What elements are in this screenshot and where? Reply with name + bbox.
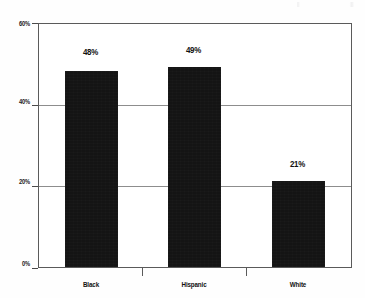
bar-value-hispanic: 49%	[169, 45, 218, 55]
y-axis-label-60: 60%	[3, 20, 30, 27]
x-axis-label-black: Black	[66, 281, 116, 288]
x-axis-separator-1	[142, 268, 143, 276]
scan-artifact	[239, 2, 359, 7]
y-axis-label-40: 40%	[3, 98, 30, 105]
y-axis-label-20: 20%	[3, 178, 30, 185]
x-axis-label-hispanic: Hispanic	[169, 281, 219, 288]
bar-texture	[168, 67, 221, 267]
bar-value-black: 48%	[66, 47, 115, 57]
bar-texture	[65, 71, 118, 267]
bar-chart-figure: 60% 40% 20% 0% 48% 49% 21% Black Hispani…	[0, 0, 365, 298]
bar-black[interactable]	[65, 71, 118, 267]
y-axis-tick-0	[32, 268, 38, 269]
x-axis-separator-2	[246, 268, 247, 276]
bar-texture	[272, 181, 325, 267]
bar-value-white: 21%	[273, 159, 322, 169]
x-axis-label-white: White	[273, 281, 323, 288]
bar-hispanic[interactable]	[168, 67, 221, 267]
bar-white[interactable]	[272, 181, 325, 267]
y-axis-label-0: 0%	[3, 260, 30, 267]
plot-area	[38, 23, 352, 268]
